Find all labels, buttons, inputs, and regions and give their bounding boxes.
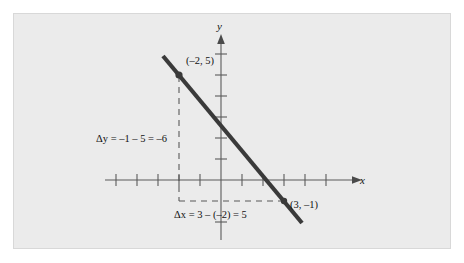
point-b-label: (3, –1) — [290, 199, 318, 211]
y-axis-arrow-icon — [217, 34, 225, 44]
figure-plate: x y (–2, 5) (3, –1) Δy = –1 – 5 = –6 Δx … — [14, 14, 450, 248]
delta-y-label: Δy = –1 – 5 = –6 — [96, 133, 167, 144]
delta-x-label: Δx = 3 – (–2) = 5 — [174, 209, 247, 221]
figure-container: x y (–2, 5) (3, –1) Δy = –1 – 5 = –6 Δx … — [0, 0, 464, 263]
y-axis-label: y — [216, 20, 222, 32]
x-axis-label: x — [359, 174, 365, 186]
plotted-line — [163, 56, 302, 223]
point-marker-b — [281, 198, 287, 204]
coordinate-plane-svg: x y (–2, 5) (3, –1) Δy = –1 – 5 = –6 Δx … — [14, 14, 450, 248]
x-axis — [105, 176, 362, 184]
point-a-label: (–2, 5) — [186, 55, 214, 67]
point-marker-a — [175, 71, 182, 78]
